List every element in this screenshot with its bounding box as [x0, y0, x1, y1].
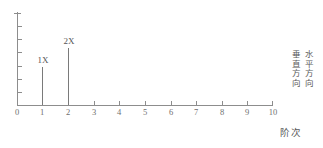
x-tick-label-6: 6 [163, 107, 179, 117]
x-tick-label-10: 10 [265, 107, 281, 117]
peak-bar-order-1 [42, 67, 43, 105]
legend-vertical-direction: 垂直方向 [290, 50, 300, 88]
x-tick-label-7: 7 [188, 107, 204, 117]
y-axis-tick [14, 13, 21, 14]
x-tick-label-1: 1 [34, 107, 50, 117]
x-tick-label-3: 3 [86, 107, 102, 117]
x-axis-tick [247, 101, 248, 105]
x-tick-label-0: 0 [9, 107, 25, 117]
y-axis-tick [18, 52, 22, 53]
x-tick-label-8: 8 [214, 107, 230, 117]
peak-label-2x: 2X [58, 36, 80, 46]
x-axis-tick [222, 101, 223, 105]
peak-label-1x: 1X [32, 55, 54, 65]
x-axis-tick [196, 101, 197, 105]
x-tick-label-9: 9 [239, 107, 255, 117]
x-axis-tick [119, 101, 120, 105]
x-tick-label-4: 4 [111, 107, 127, 117]
x-axis-tick [272, 101, 273, 105]
x-axis-tick [94, 101, 95, 105]
x-axis-tick [171, 101, 172, 105]
x-axis-tick [145, 101, 146, 105]
y-axis-tick [18, 92, 22, 93]
peak-bar-order-2 [68, 48, 69, 105]
legend-horizontal-direction: 水平方向 [303, 50, 313, 88]
order-spectrum-chart: 0 1 2 3 4 5 6 7 8 9 10 1X 2X 垂直方向 水平方向 阶… [0, 0, 323, 148]
x-axis-title: 阶次 [280, 125, 301, 139]
y-axis-tick [18, 39, 22, 40]
y-axis-tick [18, 26, 22, 27]
x-axis-line [17, 105, 273, 106]
direction-legend: 垂直方向 水平方向 [290, 50, 313, 88]
x-axis-tick [17, 101, 18, 105]
x-tick-label-2: 2 [60, 107, 76, 117]
y-axis-tick [18, 66, 22, 67]
y-axis-tick [18, 79, 22, 80]
x-tick-label-5: 5 [137, 107, 153, 117]
